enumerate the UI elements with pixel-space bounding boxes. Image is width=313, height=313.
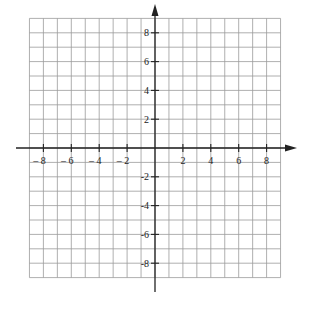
y-tick-label: -4 (141, 200, 149, 211)
x-tick-label: 4 (208, 155, 213, 166)
y-tick-label: -8 (141, 258, 149, 269)
y-tick-label: -6 (141, 229, 149, 240)
x-tick-label: – 4 (88, 155, 102, 166)
x-tick-label: 6 (236, 155, 241, 166)
y-tick-label: 4 (144, 85, 149, 96)
x-tick-label: 8 (264, 155, 269, 166)
y-tick-label: -2 (141, 171, 149, 182)
y-tick-label: 8 (144, 27, 149, 38)
x-axis-arrow-icon (285, 145, 297, 152)
coordinate-plane: – 8– 6– 4– 224688642-2-4-6-8 (0, 0, 313, 313)
y-tick-label: 2 (144, 114, 149, 125)
x-tick-label: – 6 (60, 155, 74, 166)
x-tick-label: – 2 (116, 155, 130, 166)
x-tick-label: – 8 (32, 155, 46, 166)
x-tick-label: 2 (180, 155, 185, 166)
y-tick-label: 6 (144, 56, 149, 67)
y-axis-arrow-icon (152, 4, 159, 16)
